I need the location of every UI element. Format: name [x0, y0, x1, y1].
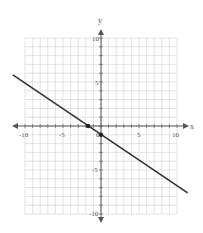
x-axis-label: x: [190, 122, 194, 131]
data-point: [86, 124, 90, 128]
y-axis-label: y: [98, 16, 102, 25]
y-tick-label: -5: [92, 166, 98, 174]
data-point: [99, 133, 103, 137]
x-axis-right-arrow-icon: [183, 123, 189, 129]
x-tick-label: 10: [172, 131, 180, 139]
y-axis-down-arrow-icon: [98, 217, 104, 223]
y-tick-label: 5: [95, 79, 99, 87]
coordinate-plane: x y -10 -5 0 5 10 10 5 -5 -10: [0, 0, 203, 233]
x-tick-label: -10: [19, 131, 29, 139]
y-tick-label: -10: [89, 210, 99, 218]
x-tick-label: -5: [59, 131, 65, 139]
y-tick-label: 10: [92, 35, 100, 43]
x-tick-label: 5: [137, 131, 141, 139]
x-axis-left-arrow-icon: [12, 123, 18, 129]
